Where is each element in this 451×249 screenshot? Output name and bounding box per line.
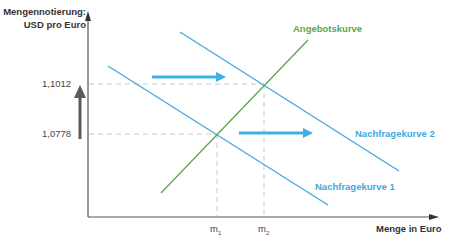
- x-axis-arrow-icon: [429, 214, 439, 220]
- y-tick-low: 1,0778: [42, 128, 71, 139]
- y-axis-label-line1: Mengennotierung:: [3, 5, 86, 18]
- x-tick-m1: m1: [210, 223, 221, 236]
- x-axis-label: Menge in Euro: [376, 223, 441, 234]
- y-tick-high: 1,1012: [42, 78, 71, 89]
- x-tick-m1-sub: 1: [218, 230, 221, 236]
- demand-curve-1: [108, 66, 328, 205]
- x-tick-m2-sub: 2: [266, 230, 269, 236]
- supply-curve-label: Angebotskurve: [293, 23, 362, 34]
- demand-curve-2: [180, 32, 399, 171]
- supply-curve: [161, 40, 308, 193]
- y-axis-label: Mengennotierung: USD pro Euro: [3, 5, 86, 31]
- arrow-right-icon: [216, 72, 226, 82]
- x-tick-m2: m2: [258, 223, 269, 236]
- demand-shift-arrows: [152, 72, 313, 138]
- chart-canvas: [0, 0, 451, 249]
- guide-lines: [89, 84, 264, 217]
- demand-curve-2-label: Nachfragekurve 2: [355, 128, 435, 139]
- x-tick-m1-text: m: [210, 223, 218, 234]
- arrow-up-icon: [74, 85, 86, 98]
- y-axis-label-line2: USD pro Euro: [3, 18, 86, 31]
- x-tick-m2-text: m: [258, 223, 266, 234]
- arrow-right-icon: [303, 128, 313, 138]
- demand-curve-1-label: Nachfragekurve 1: [315, 181, 395, 192]
